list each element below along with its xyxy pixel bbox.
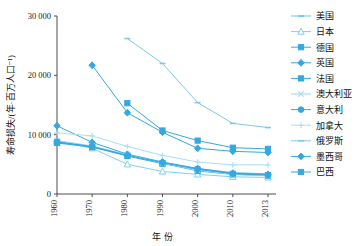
legend-label: 英国 bbox=[316, 57, 334, 68]
series-9 bbox=[89, 62, 271, 156]
legend-item[interactable]: 加拿大 bbox=[291, 120, 343, 131]
marker-circle bbox=[265, 172, 271, 178]
y-tick-label: 0 bbox=[47, 189, 51, 199]
marker-plus bbox=[195, 159, 201, 165]
marker-circle bbox=[125, 153, 131, 159]
x-tick-label: 1980 bbox=[119, 200, 129, 217]
marker-circle bbox=[160, 160, 166, 166]
series-line bbox=[92, 65, 268, 152]
marker-diamond bbox=[194, 145, 200, 152]
marker-plus bbox=[160, 153, 166, 159]
marker-square bbox=[298, 76, 303, 81]
legend-label: 美国 bbox=[316, 10, 334, 21]
legend-label: 意大利 bbox=[316, 104, 343, 115]
legend-item[interactable]: 日本 bbox=[291, 26, 334, 37]
legend-item[interactable]: 法国 bbox=[291, 73, 334, 84]
legend-item[interactable]: 意大利 bbox=[291, 104, 343, 115]
legend-item[interactable]: 德国 bbox=[291, 42, 334, 53]
x-tick-label: 1970 bbox=[84, 200, 94, 217]
marker-square bbox=[195, 138, 200, 143]
marker-square bbox=[230, 145, 235, 150]
legend-label: 加拿大 bbox=[316, 120, 343, 131]
legend-label: 墨西哥 bbox=[316, 152, 343, 162]
legend: 美国日本德国英国法国澳大利亚意大利加拿大俄罗斯墨西哥巴西 bbox=[291, 10, 352, 177]
legend-label: 德国 bbox=[316, 42, 334, 53]
x-tick-label: 1960 bbox=[49, 200, 59, 217]
marker-square bbox=[298, 45, 303, 50]
marker-plus bbox=[125, 144, 131, 150]
marker-plus bbox=[230, 162, 236, 168]
marker-circle bbox=[195, 166, 201, 172]
x-tick-label: 1990 bbox=[155, 200, 165, 217]
legend-label: 俄罗斯 bbox=[316, 135, 343, 146]
x-tick-label: 2000 bbox=[190, 200, 200, 217]
legend-item[interactable]: 墨西哥 bbox=[291, 152, 343, 162]
legend-item[interactable]: 英国 bbox=[291, 57, 334, 68]
marker-square bbox=[265, 146, 270, 151]
marker-square bbox=[298, 169, 303, 174]
legend-item[interactable]: 巴西 bbox=[291, 167, 334, 177]
legend-label: 澳大利亚 bbox=[316, 88, 352, 99]
x-axis-title: 年 份 bbox=[152, 231, 172, 242]
y-tick-label: 20 000 bbox=[28, 70, 51, 80]
marker-plus bbox=[89, 133, 95, 139]
marker-square bbox=[125, 101, 130, 106]
marker-square bbox=[160, 128, 165, 133]
legend-item[interactable]: 美国 bbox=[291, 10, 334, 21]
y-tick-label: 30 000 bbox=[28, 11, 51, 21]
marker-diamond bbox=[298, 153, 304, 160]
marker-plus bbox=[265, 162, 271, 168]
marker-circle bbox=[230, 171, 236, 177]
marker-diamond bbox=[54, 122, 60, 129]
legend-label: 巴西 bbox=[316, 167, 334, 177]
y-axis-title: 寿命损失/(年·百万人口⁻¹) bbox=[5, 55, 16, 155]
marker-circle bbox=[54, 139, 60, 145]
series-line bbox=[127, 39, 268, 128]
series-10 bbox=[125, 101, 271, 152]
chart-container: 010 00020 00030 000196019701980199020002… bbox=[0, 0, 363, 246]
legend-label: 日本 bbox=[316, 26, 334, 37]
marker-diamond bbox=[298, 59, 304, 66]
marker-plus bbox=[298, 122, 304, 128]
legend-item[interactable]: 澳大利亚 bbox=[291, 88, 352, 99]
y-tick-label: 10 000 bbox=[28, 130, 51, 140]
line-chart: 010 00020 00030 000196019701980199020002… bbox=[0, 0, 363, 246]
marker-triangle-open bbox=[124, 161, 130, 167]
marker-circle bbox=[89, 144, 95, 150]
legend-item[interactable]: 俄罗斯 bbox=[291, 135, 343, 146]
series-8 bbox=[124, 39, 271, 128]
marker-circle bbox=[298, 107, 304, 113]
x-tick-label: 2013 bbox=[260, 200, 270, 217]
legend-label: 法国 bbox=[316, 73, 334, 84]
axis-lines bbox=[57, 16, 276, 194]
x-tick-label: 2010 bbox=[225, 200, 235, 217]
